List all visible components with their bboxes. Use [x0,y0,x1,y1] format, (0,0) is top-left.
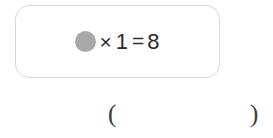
multiplication-operator: × [99,31,111,52]
equation-operand: 1 [116,31,128,53]
answer-input[interactable] [122,98,248,130]
open-parenthesis: ( [108,98,116,130]
equation-result: 8 [147,31,159,53]
filled-circle-icon [75,31,96,52]
equation: × 1 = 8 [16,6,219,77]
answer-blank[interactable]: ( ) [108,98,260,130]
problem-card: × 1 = 8 [15,5,220,78]
equals-operator: = [132,30,144,51]
close-parenthesis: ) [250,98,258,130]
